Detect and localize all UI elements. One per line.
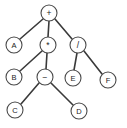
tree-node-A[interactable]: A — [6, 37, 22, 53]
tree-edges — [20, 19, 102, 105]
tree-node-E[interactable]: E — [65, 70, 81, 86]
tree-edge-n3-n5 — [20, 51, 42, 71]
node-circle — [37, 69, 53, 85]
node-circle — [40, 37, 56, 53]
tree-edge-n4-n8 — [84, 51, 102, 74]
tree-edge-n6-n10 — [51, 83, 73, 105]
tree-edge-n6-n9 — [21, 83, 39, 104]
node-circle — [6, 37, 22, 53]
node-circle — [6, 69, 22, 85]
node-circle — [41, 5, 57, 21]
tree-edge-n1-n4 — [55, 19, 72, 39]
tree-node-plus[interactable]: + — [41, 5, 57, 21]
tree-node-divide[interactable]: / — [70, 37, 86, 53]
tree-node-times[interactable]: * — [40, 37, 56, 53]
tree-node-F[interactable]: F — [100, 72, 116, 88]
tree-svg-canvas: +A*/B−EFCD — [0, 0, 127, 128]
expression-tree-diagram: +A*/B−EFCD — [0, 0, 127, 128]
tree-node-minus[interactable]: − — [37, 69, 53, 85]
tree-node-C[interactable]: C — [7, 102, 23, 118]
node-circle — [100, 72, 116, 88]
node-circle — [70, 37, 86, 53]
node-circle — [7, 102, 23, 118]
tree-node-D[interactable]: D — [71, 103, 87, 119]
tree-edge-n1-n3 — [48, 21, 49, 37]
tree-edge-n4-n7 — [74, 53, 77, 70]
tree-node-B[interactable]: B — [6, 69, 22, 85]
tree-edge-n1-n2 — [20, 19, 43, 39]
tree-edge-n3-n6 — [46, 53, 47, 69]
node-circle — [65, 70, 81, 86]
node-circle — [71, 103, 87, 119]
